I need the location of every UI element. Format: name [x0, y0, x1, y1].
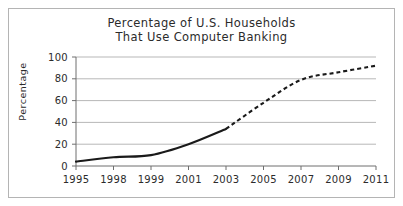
data-line-projected [226, 66, 376, 129]
y-tick-label: 40 [55, 117, 68, 128]
x-tick-label: 2007 [288, 174, 315, 185]
chart-figure: Percentage of U.S. Households That Use C… [0, 0, 403, 206]
x-axis-ticks: 199519981999200120032005200720092011 [63, 166, 390, 185]
y-tick-label: 60 [55, 95, 68, 106]
x-tick-label: 1999 [138, 174, 165, 185]
y-tick-label: 100 [48, 52, 68, 63]
plot-area: 020406080100 199519981999200120032005200… [0, 0, 403, 206]
y-tick-label: 80 [55, 73, 68, 84]
x-tick-label: 2003 [213, 174, 240, 185]
x-tick-label: 1998 [100, 174, 127, 185]
x-tick-label: 2009 [325, 174, 352, 185]
x-tick-label: 2001 [175, 174, 202, 185]
x-tick-label: 2005 [250, 174, 277, 185]
x-tick-label: 2011 [363, 174, 390, 185]
x-tick-label: 1995 [63, 174, 90, 185]
y-axis-ticks: 020406080100 [48, 52, 76, 172]
y-tick-label: 0 [61, 161, 68, 172]
data-line-actual [76, 129, 226, 162]
gridlines [76, 57, 376, 144]
y-tick-label: 20 [55, 139, 68, 150]
